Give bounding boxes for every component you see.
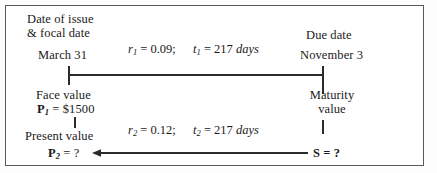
top-rate-value: 0.09; [150,42,175,56]
bottom-time-subscript: 2 [197,128,201,138]
maturity-value-label: Maturity value [300,88,364,116]
top-rate-equals: = [140,42,147,56]
maturity-value-line2: value [300,102,364,116]
present-value-amount: ? [74,146,80,160]
bottom-rate-subscript: 2 [133,128,137,138]
date-of-issue-line1: Date of issue [27,12,94,26]
s-equals: = [323,146,330,160]
date-of-issue-line2: & focal date [27,26,94,40]
maturity-value-line1: Maturity [300,88,364,102]
end-date-label: November 3 [300,48,363,62]
face-value-equation: P1 = $1500 [37,102,94,118]
date-of-issue-label: Date of issue & focal date [27,12,94,40]
face-value-symbol: P [37,102,45,116]
top-rate-subscript: 1 [133,47,137,57]
start-date-label: March 31 [38,48,87,62]
face-value-amount: $1500 [63,102,95,116]
bottom-rate-equals: = [140,123,147,137]
face-value-label: Face value [36,88,94,102]
present-value-equals: = [63,146,70,160]
bottom-rate-value: 0.12; [150,123,175,137]
top-rate-time-annotation: r1 = 0.09; t1 = 217 days [128,42,259,57]
due-date-label: Due date [306,28,352,42]
bottom-time-equals: = [204,123,211,137]
face-value-block: Face value P1 = $1500 [36,88,94,118]
top-time-unit: days [236,42,259,56]
present-value-equation: P2 = ? [48,146,79,162]
present-value-symbol: P [48,146,56,160]
bottom-time-unit: days [236,123,259,137]
top-time-value: 217 [214,42,233,56]
top-time-subscript: 1 [197,47,201,57]
top-time-equals: = [204,42,211,56]
present-value-subscript: 2 [56,151,60,161]
maturity-value-equation: S = ? [313,146,340,160]
face-value-equals: = [52,102,59,116]
bottom-time-value: 217 [214,123,233,137]
face-value-subscript: 1 [45,107,49,117]
discount-arrow-head [92,149,101,156]
bottom-rate-time-annotation: r2 = 0.12; t2 = 217 days [128,123,259,138]
present-value-label: Present value [25,129,93,143]
timeline-figure: Date of issue & focal date Due date Marc… [0,0,437,173]
s-amount: ? [334,146,340,160]
s-symbol: S [313,146,320,160]
